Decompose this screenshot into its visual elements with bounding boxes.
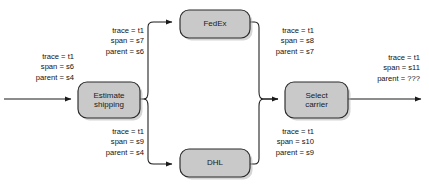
edge-label-inbound-parent: parent = s4 xyxy=(14,73,74,83)
edge-label-from-dhl-span: span = s10 xyxy=(254,137,314,147)
edge-label-inbound: trace = t1 span = s6 parent = s4 xyxy=(14,52,74,83)
edge-label-to-dhl-trace: trace = t1 xyxy=(84,127,144,137)
edge-label-to-fedex-trace: trace = t1 xyxy=(84,26,144,36)
node-dhl xyxy=(180,149,250,177)
edge-label-to-dhl-parent: parent = s4 xyxy=(84,148,144,158)
edge-label-from-fedex-trace: trace = t1 xyxy=(254,26,314,36)
edge-label-from-dhl-parent: parent = s9 xyxy=(254,148,314,158)
nodes-layer xyxy=(0,0,429,188)
edge-label-outbound: trace = t1 span = s11 parent = ??? xyxy=(352,53,420,84)
edge-label-outbound-span: span = s11 xyxy=(352,63,420,73)
node-fedex xyxy=(180,10,250,38)
edge-label-from-dhl: trace = t1 span = s10 parent = s9 xyxy=(254,127,314,158)
edge-label-to-dhl-span: span = s9 xyxy=(84,137,144,147)
edge-label-inbound-trace: trace = t1 xyxy=(14,52,74,62)
edge-label-from-fedex-parent: parent = s7 xyxy=(254,47,314,57)
edge-label-outbound-parent: parent = ??? xyxy=(352,74,420,84)
edge-label-to-dhl: trace = t1 span = s9 parent = s4 xyxy=(84,127,144,158)
edge-label-from-fedex: trace = t1 span = s8 parent = s7 xyxy=(254,26,314,57)
node-estimate-shipping xyxy=(78,82,140,118)
edge-label-from-fedex-span: span = s8 xyxy=(254,36,314,46)
edge-label-to-fedex: trace = t1 span = s7 parent = s6 xyxy=(84,26,144,57)
edge-label-from-dhl-trace: trace = t1 xyxy=(254,127,314,137)
node-select-carrier xyxy=(285,82,348,118)
edge-label-to-fedex-span: span = s7 xyxy=(84,36,144,46)
diagram-canvas: Estimate shipping FedEx DHL Select carri… xyxy=(0,0,429,188)
edge-label-outbound-trace: trace = t1 xyxy=(352,53,420,63)
edge-label-inbound-span: span = s6 xyxy=(14,62,74,72)
edge-label-to-fedex-parent: parent = s6 xyxy=(84,47,144,57)
